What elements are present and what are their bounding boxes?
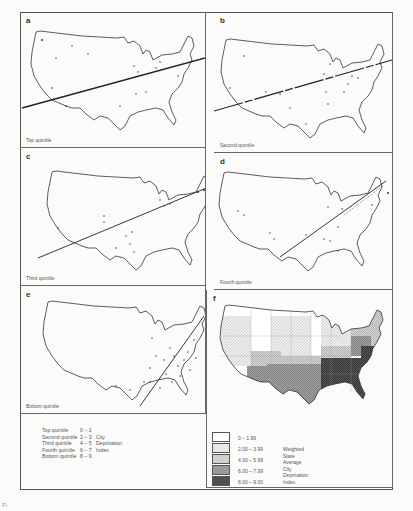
swatch-class-2 — [212, 443, 230, 453]
legend-quintile: Second quintile — [42, 434, 80, 441]
range-label: 4.00 – 5.99 — [238, 455, 263, 466]
us-choropleth-icon — [207, 290, 393, 420]
range-label: 6.00 – 7.99 — [238, 466, 263, 477]
panel-letter: b — [220, 16, 225, 25]
panel-letter: f — [213, 294, 216, 303]
swatch-class-3 — [212, 454, 230, 464]
legend-row: Top quintile 0 – 1 — [42, 427, 122, 434]
panel-caption: Top quintile — [26, 137, 51, 143]
legend-title-line: Index — [283, 479, 308, 486]
legend-row: Third quintile 4 – 5 Deprivation — [42, 440, 122, 447]
legend-label: Deprivation — [96, 440, 122, 447]
legend-quintile: Bottom quintile — [42, 453, 80, 460]
legend-ranges: 0 – 1.99 2.00 – 3.99 4.00 – 5.99 6.00 – … — [238, 433, 263, 488]
panel-e-bottom-quintile-map: e Bottom quintile — [20, 286, 206, 414]
legend-range: 8 – 9 — [80, 453, 96, 460]
legend-title-line: Deprivation — [283, 472, 308, 479]
us-map-icon — [20, 286, 206, 414]
legend-label: Index — [96, 447, 109, 454]
panel-caption: Third quintile — [26, 275, 55, 281]
panel-letter: e — [26, 290, 30, 299]
legend-quintile: Top quintile — [42, 427, 80, 434]
panel-caption: Second quintile — [220, 142, 254, 148]
us-map-icon — [20, 12, 206, 148]
legend-swatches — [212, 432, 230, 487]
us-map-icon — [214, 12, 393, 153]
panel-d-fourth-quintile-map: d Fourth quintile — [214, 153, 393, 290]
us-map-icon — [20, 148, 206, 286]
legend-quintile: Fourth quintile — [42, 447, 80, 454]
panel-a-top-quintile-map: a Top quintile — [20, 12, 206, 148]
panel-b-second-quintile-map: b Second quintile — [214, 12, 393, 153]
us-map-icon — [214, 153, 393, 290]
range-label: 8.00 – 9.00 — [238, 477, 263, 488]
swatch-class-1 — [212, 432, 230, 442]
legend-range: 2 – 3 — [80, 434, 96, 441]
legend-range: 0 – 1 — [80, 427, 96, 434]
legend-range: 4 – 5 — [80, 440, 96, 447]
page-footer-mark: Fi — [2, 502, 7, 508]
panel-caption: Fourth quintile — [220, 279, 252, 285]
range-label: 0 – 1.99 — [238, 433, 263, 444]
panel-letter: c — [26, 152, 30, 161]
legend-row: Second quintile 2 – 3 City — [42, 434, 122, 441]
legend-range: 6 – 7 — [80, 447, 96, 454]
panel-c-third-quintile-map: c Third quintile — [20, 148, 206, 286]
panel-caption: Bottom quintile — [26, 403, 59, 409]
swatch-class-5 — [212, 476, 230, 486]
legend-row: Fourth quintile 6 – 7 Index — [42, 447, 122, 454]
quintile-legend: Top quintile 0 – 1 Second quintile 2 – 3… — [42, 427, 122, 460]
panel-letter: a — [26, 16, 30, 25]
legend-row: Bottom quintile 8 – 9 — [42, 453, 122, 460]
panel-letter: d — [220, 157, 225, 166]
range-label: 2.00 – 3.99 — [238, 444, 263, 455]
legend-quintile: Third quintile — [42, 440, 80, 447]
legend-title: Weighted State Average City Deprivation … — [283, 446, 308, 485]
legend-label: City — [96, 434, 105, 441]
swatch-class-4 — [212, 465, 230, 475]
legend-title-line: Average City — [283, 459, 308, 472]
